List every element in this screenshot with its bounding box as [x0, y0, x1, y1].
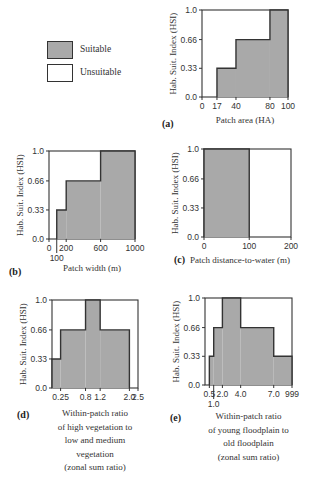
x-axis-label: Patch width (m) — [63, 263, 121, 273]
chart-panel-d: 0.00.330.661.00.250.81.22.02.5Hab. Suit.… — [17, 295, 144, 472]
x-tick-label: 0 — [202, 241, 207, 251]
suitable-region — [101, 151, 135, 239]
x-tick-label: 100 — [50, 253, 64, 263]
y-tick-label: 0.0 — [32, 234, 44, 244]
panel-label: (e) — [170, 412, 181, 424]
chart-panel-b: 0.00.330.661.001002006001000Hab. Suit. I… — [9, 146, 145, 278]
y-axis-label: Hab. Suit. Index (HSI) — [15, 154, 25, 236]
suitable-region — [274, 356, 292, 385]
suitable-region — [66, 181, 100, 239]
x-tick-label: 0.8 — [80, 392, 92, 402]
y-tick-label: 0.33 — [183, 351, 200, 361]
y-tick-label: 1.0 — [35, 295, 47, 305]
x-axis-label: Patch area (HA) — [216, 115, 274, 125]
y-tick-label: 0.0 — [35, 383, 47, 393]
suitable-region — [241, 328, 274, 385]
y-tick-label: 0.66 — [182, 174, 199, 184]
suitable-region — [57, 210, 66, 239]
y-tick-label: 0.33 — [182, 203, 199, 213]
x-axis-label-line: old floodplain — [223, 438, 274, 448]
suitable-region — [204, 149, 249, 237]
y-tick-label: 1.0 — [185, 5, 197, 15]
x-tick-label: 100 — [281, 101, 295, 111]
suitable-region — [236, 40, 270, 97]
x-tick-label: 40 — [231, 101, 241, 111]
x-tick-label: 1.2 — [94, 392, 106, 402]
y-tick-label: 0.0 — [185, 92, 197, 102]
panel-label: (c) — [174, 254, 185, 266]
y-axis-label: Hab. Suit. Index (HSI) — [170, 152, 180, 234]
panel-label: (d) — [17, 409, 29, 421]
x-axis-label-line: Within-patch ratio — [62, 408, 128, 418]
x-tick-label: 200 — [59, 243, 73, 253]
x-axis-label-line: of high vegetation to — [58, 422, 133, 432]
x-tick-label: 100 — [242, 241, 256, 251]
chart-panel-e: 0.00.330.661.00.51.02.04.07.0999Hab. Sui… — [170, 293, 299, 462]
hsi-charts: 0.00.330.661.00174080100Hab. Suit. Index… — [0, 0, 312, 488]
x-tick-label: 80 — [265, 101, 275, 111]
suitable-region — [86, 300, 101, 388]
y-tick-label: 0.33 — [180, 63, 197, 73]
y-tick-label: 0.66 — [183, 323, 200, 333]
y-axis-label: Hab. Suit. Index (HSI) — [168, 13, 178, 95]
x-tick-label: 4.0 — [235, 389, 247, 399]
x-axis-label: Patch distance-to-water (m) — [190, 255, 290, 265]
x-tick-label: 200 — [284, 241, 298, 251]
y-tick-label: 1.0 — [188, 293, 200, 303]
x-axis-label-line: (zonal sum ratio) — [218, 452, 279, 462]
suitable-region — [217, 68, 236, 97]
y-tick-label: 0.66 — [30, 325, 47, 335]
panel-label: (b) — [9, 266, 21, 278]
y-tick-label: 1.0 — [32, 146, 44, 156]
suitable-region — [214, 328, 223, 385]
x-axis-label-line: low and medium — [65, 435, 126, 445]
x-tick-label: 2.0 — [216, 389, 228, 399]
x-tick-label: 17 — [212, 101, 222, 111]
suitable-region — [52, 359, 61, 388]
x-tick-label: 999 — [285, 389, 299, 399]
x-tick-label: 1.0 — [208, 399, 220, 409]
y-tick-label: 1.0 — [187, 144, 199, 154]
x-axis-label-line: vegetation — [76, 449, 114, 459]
y-axis-label: Hab. Suit. Index (HSI) — [18, 303, 28, 385]
x-tick-label: 0 — [200, 101, 205, 111]
suitable-region — [270, 10, 288, 97]
suitable-region — [61, 330, 86, 388]
y-tick-label: 0.0 — [188, 380, 200, 390]
y-tick-label: 0.0 — [187, 232, 199, 242]
suitable-region — [100, 330, 129, 388]
x-tick-label: 7.0 — [268, 389, 280, 399]
y-tick-label: 0.33 — [30, 354, 47, 364]
x-tick-label: 2.5 — [132, 392, 144, 402]
x-axis-label-line: of young floodplain to — [208, 425, 289, 435]
panel-label: (a) — [162, 118, 174, 130]
y-tick-label: 0.33 — [27, 205, 44, 215]
x-tick-label: 600 — [94, 243, 108, 253]
x-tick-label: 1000 — [126, 243, 145, 253]
y-axis-label: Hab. Suit. Index (HSI) — [171, 301, 181, 383]
x-tick-label: 0 — [47, 243, 52, 253]
x-axis-label-line: (zonal sum ratio) — [64, 462, 125, 472]
y-tick-label: 0.66 — [27, 176, 44, 186]
x-tick-label: 0.25 — [52, 392, 69, 402]
chart-panel-c: 0.00.330.661.00100200Hab. Suit. Index (H… — [170, 144, 298, 266]
chart-panel-a: 0.00.330.661.00174080100Hab. Suit. Index… — [162, 5, 295, 130]
y-tick-label: 0.66 — [180, 35, 197, 45]
suitable-region — [222, 298, 240, 385]
x-axis-label-line: Within-patch ratio — [216, 411, 282, 421]
